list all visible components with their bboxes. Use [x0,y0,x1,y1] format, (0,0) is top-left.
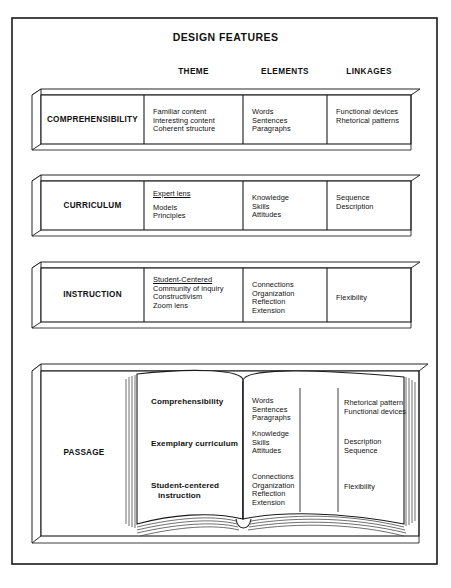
figure-title: DESIGN FEATURES [0,31,451,43]
column-header-theme: THEME [144,67,243,77]
row-instruction-linkages: Flexibility [336,294,367,303]
row-label-passage: PASSAGE [41,448,127,458]
passage-heading-3: Student-centeredinstruction [151,481,219,500]
row-curriculum-theme: Expert lensModelsPrinciples [153,190,191,221]
row-label-comprehensibility: COMPREHENSIBILITY [41,115,144,125]
passage-linkages-3: Flexibility [344,483,375,492]
row-instruction-elements: ConnectionsOrganizationReflectionExtensi… [252,281,295,316]
figure-canvas: .ln { fill:none; stroke:#1a1a1a; stroke-… [0,0,451,588]
passage-heading-2: Exemplary curriculum [151,439,238,449]
row-label-curriculum: CURRICULUM [41,201,144,211]
row-curriculum-linkages: SequenceDescription [336,194,374,211]
passage-heading-1: Comprehensibility [151,397,223,407]
row-comprehensibility-elements: WordsSentencesParagraphs [252,108,291,134]
passage-elements-1: WordsSentencesParagraphs [252,397,291,423]
row-comprehensibility-theme: Familiar contentInteresting contentCoher… [153,108,215,134]
row-instruction-theme: Student-CenteredCommunity of inquiryCons… [153,276,223,311]
column-header-linkages: LINKAGES [327,67,411,77]
passage-linkages-1: Rhetorical patternFunctional devices [344,399,406,416]
passage-linkages-2: DescriptionSequence [344,438,382,455]
passage-elements-3: ConnectionsOrganizationReflectionExtensi… [252,473,295,508]
row-label-instruction: INSTRUCTION [41,290,144,300]
column-header-elements: ELEMENTS [243,67,327,77]
passage-elements-2: KnowledgeSkillsAttitudes [252,430,289,456]
row-curriculum-elements: KnowledgeSkillsAttitudes [252,194,289,220]
row-comprehensibility-linkages: Functional devicesRhetorical patterns [336,108,399,125]
